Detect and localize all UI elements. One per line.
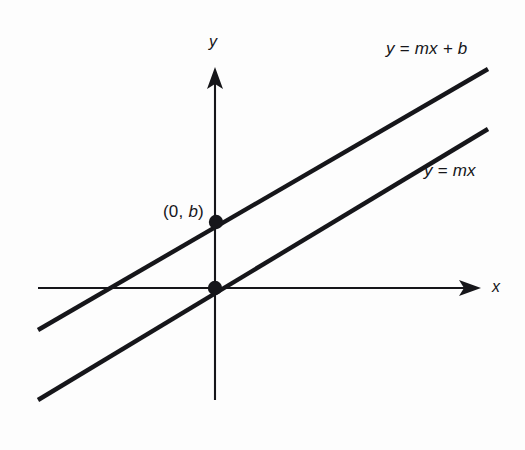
axis-label-y: y: [209, 34, 217, 50]
axis-label-x: x: [492, 279, 500, 295]
point-y-intercept: [209, 215, 223, 229]
intercept-label-variable: b: [188, 202, 198, 221]
label-line-y-equals-mx-plus-b: y = mx + b: [386, 40, 467, 57]
label-line-y-equals-mx: y = mx: [424, 162, 476, 179]
linear-functions-figure: y = mx + b y = mx (0, b) y x: [0, 0, 525, 450]
coordinate-plane-graphic: [0, 0, 525, 450]
point-origin: [208, 281, 222, 295]
line-y-equals-mx-plus-b: [38, 69, 488, 330]
label-point-zero-b: (0, b): [163, 203, 204, 220]
line-y-equals-mx: [38, 129, 488, 400]
intercept-label-prefix: (0,: [163, 202, 188, 221]
intercept-label-suffix: ): [198, 202, 204, 221]
